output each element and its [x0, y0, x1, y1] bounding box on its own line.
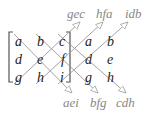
entry-a: a	[15, 34, 22, 49]
entry-i: i	[60, 70, 64, 85]
label-aei: aei	[63, 95, 79, 110]
label-gec: gec	[67, 6, 85, 21]
diagram-canvas: a b c d e f g h i a b d e g h gec hfa id…	[0, 0, 154, 115]
matrix-entries: a b c d e f g h i	[15, 34, 67, 85]
entry-f: f	[61, 52, 67, 67]
extra-d: d	[85, 52, 93, 67]
entry-h: h	[37, 70, 44, 85]
extra-h: h	[107, 70, 114, 85]
entry-e: e	[37, 52, 43, 67]
entry-b: b	[37, 34, 44, 49]
extra-g: g	[85, 70, 92, 85]
extra-columns: a b d e g h	[85, 34, 114, 85]
entry-c: c	[59, 34, 66, 49]
label-bfg: bfg	[90, 95, 107, 110]
label-idb: idb	[125, 6, 142, 21]
extra-e: e	[107, 52, 113, 67]
positive-labels: aei bfg cdh	[63, 95, 135, 110]
entry-d: d	[15, 52, 23, 67]
sarrus-diagram: a b c d e f g h i a b d e g h gec hfa id…	[0, 0, 154, 115]
label-cdh: cdh	[116, 95, 135, 110]
entry-g: g	[15, 70, 22, 85]
extra-a: a	[85, 34, 92, 49]
left-bracket	[9, 32, 13, 82]
negative-labels: gec hfa idb	[67, 6, 142, 21]
label-hfa: hfa	[96, 6, 113, 21]
extra-b: b	[107, 34, 114, 49]
